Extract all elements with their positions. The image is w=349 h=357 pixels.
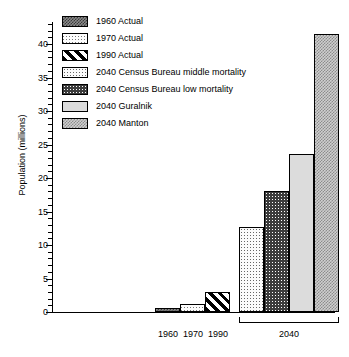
legend-item: 2040 Manton [62, 115, 246, 132]
legend-swatch-light-speckle-icon [62, 33, 88, 44]
legend-swatch-medium-checker-icon [62, 118, 88, 129]
chart-legend: 1960 Actual 1970 Actual 1990 Actual 2040… [62, 13, 246, 132]
legend-label: 2040 Manton [96, 119, 149, 128]
legend-item: 1970 Actual [62, 30, 246, 47]
y-axis-line [52, 22, 53, 312]
y-axis-title: Population (millions) [17, 85, 27, 225]
legend-swatch-fine-dots-icon [62, 67, 88, 78]
y-tick-label: 25 [26, 141, 48, 150]
x-group-label-2040: 2040 [264, 330, 314, 339]
legend-item: 2040 Guralnik [62, 98, 246, 115]
legend-item: 2040 Census Bureau low mortality [62, 81, 246, 98]
legend-label: 2040 Census Bureau middle mortality [96, 68, 246, 77]
y-tick-label: 5 [26, 275, 48, 284]
x-tick-label-1990: 1990 [198, 330, 238, 339]
bar-1970-actual [180, 304, 205, 312]
legend-item: 1960 Actual [62, 13, 246, 30]
bar-1990-actual [205, 292, 230, 312]
y-tick-label: 30 [26, 107, 48, 116]
legend-item: 1990 Actual [62, 47, 246, 64]
y-tick-label: 0 [26, 308, 48, 317]
legend-label: 1960 Actual [96, 17, 143, 26]
legend-label: 1970 Actual [96, 34, 143, 43]
legend-label: 2040 Census Bureau low mortality [96, 85, 233, 94]
bar-2040-census-low-mortality [264, 191, 289, 312]
y-tick-label: 20 [26, 174, 48, 183]
legend-label: 2040 Guralnik [96, 102, 152, 111]
bar-2040-guralnik [289, 154, 314, 312]
bar-2040-manton [314, 34, 339, 312]
bar-chart: Population (millions) [0, 0, 349, 357]
bar-1960-actual [155, 308, 180, 312]
x-axis-line [52, 312, 335, 313]
y-tick-label: 15 [26, 208, 48, 217]
y-tick-label: 10 [26, 241, 48, 250]
legend-swatch-dense-dark-speckle-icon [62, 84, 88, 95]
y-tick-label: 40 [26, 40, 48, 49]
legend-swatch-dark-checker-icon [62, 16, 88, 27]
legend-swatch-plain-light-gray-icon [62, 101, 88, 112]
bar-2040-census-middle-mortality [239, 227, 264, 312]
legend-item: 2040 Census Bureau middle mortality [62, 64, 246, 81]
y-tick-label: 35 [26, 74, 48, 83]
legend-label: 1990 Actual [96, 51, 143, 60]
group-bracket-2040 [239, 317, 339, 323]
legend-swatch-diagonal-stripes-icon [62, 50, 88, 61]
